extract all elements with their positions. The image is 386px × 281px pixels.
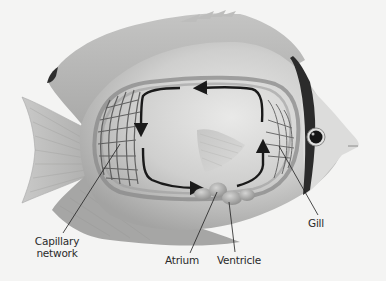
label-capillary-line2: network bbox=[33, 247, 81, 259]
label-capillary-network: Capillary network bbox=[33, 235, 81, 259]
eye-highlight bbox=[312, 133, 315, 136]
label-gill: Gill bbox=[302, 217, 330, 229]
bulbus-chamber bbox=[239, 189, 255, 201]
eye-pupil bbox=[310, 131, 323, 144]
fish-circulation-diagram: Capillary network Atrium Ventricle Gill bbox=[0, 0, 386, 281]
label-capillary-line1: Capillary bbox=[33, 235, 81, 247]
ventricle-chamber bbox=[222, 191, 242, 205]
label-atrium: Atrium bbox=[160, 254, 204, 266]
label-ventricle: Ventricle bbox=[210, 254, 268, 266]
